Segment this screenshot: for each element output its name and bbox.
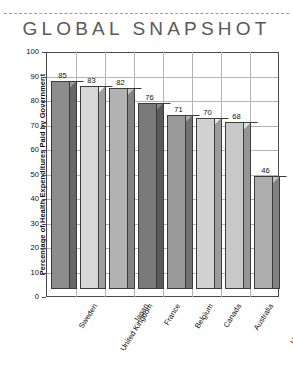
x-axis-label-france: France — [162, 302, 182, 327]
y-axis-tick-label: 80 — [14, 96, 39, 105]
x-axis-label-sweden: Sweden — [76, 302, 98, 330]
bar-value-label: 83 — [76, 76, 107, 85]
bar-value-label: 85 — [47, 71, 78, 80]
bar-united-states[interactable] — [254, 176, 273, 296]
bar-sweden[interactable] — [51, 81, 70, 296]
bar-value-label: 71 — [163, 105, 194, 114]
bar-front-face — [225, 122, 244, 289]
top-divider-rule — [4, 13, 289, 14]
bar-side-face — [186, 115, 193, 289]
y-axis-tick-label: 10 — [14, 268, 39, 277]
y-axis-tick-label: 40 — [14, 194, 39, 203]
y-axis-tick-label: 20 — [14, 243, 39, 252]
plot-inner: 8583827671706846 — [47, 52, 278, 296]
bar-side-face — [70, 81, 77, 289]
bar-belgium[interactable] — [167, 115, 186, 296]
bar-value-label: 46 — [250, 166, 281, 175]
x-axis-label-united-states: United States — [288, 302, 293, 345]
bar-value-label: 82 — [105, 78, 136, 87]
bar-japan[interactable] — [109, 88, 128, 296]
y-axis-tick-label: 90 — [14, 72, 39, 81]
y-axis-tick-label: 30 — [14, 219, 39, 228]
y-axis-tick-label: 70 — [14, 121, 39, 130]
bar-side-face — [157, 103, 164, 289]
bar-front-face — [109, 88, 128, 289]
bar-australia[interactable] — [225, 122, 244, 296]
bar-side-face — [244, 122, 251, 289]
y-axis-tick-label: 0 — [14, 292, 39, 301]
y-axis-tick-label: 60 — [14, 145, 39, 154]
bar-front-face — [138, 103, 157, 289]
bar-front-face — [80, 86, 99, 289]
bar-side-face — [215, 118, 222, 290]
bar-side-face — [273, 176, 280, 289]
y-axis-tick-mark — [42, 297, 46, 298]
bar-united-kingdom[interactable] — [80, 86, 99, 296]
bar-front-face — [254, 176, 273, 289]
x-axis-label-australia: Australia — [251, 302, 274, 332]
bar-value-label: 76 — [134, 93, 165, 102]
chart-title: GLOBAL SNAPSHOT — [0, 18, 293, 40]
bar-side-face — [128, 88, 135, 289]
x-axis-label-canada: Canada — [221, 302, 243, 329]
bar-side-face — [99, 86, 106, 289]
bar-france[interactable] — [138, 103, 157, 296]
x-axis-label-belgium: Belgium — [192, 302, 214, 330]
bar-canada[interactable] — [196, 118, 215, 297]
plot-area: 8583827671706846 — [46, 52, 278, 297]
bar-front-face — [167, 115, 186, 289]
bar-front-face — [51, 81, 70, 289]
bar-front-face — [196, 118, 215, 290]
x-axis-label-united-kingdom: United Kingdom — [118, 302, 154, 353]
bar-value-label: 70 — [192, 108, 223, 117]
bar-value-label: 68 — [221, 112, 252, 121]
y-axis-tick-label: 100 — [14, 47, 39, 56]
y-axis-tick-label: 50 — [14, 170, 39, 179]
